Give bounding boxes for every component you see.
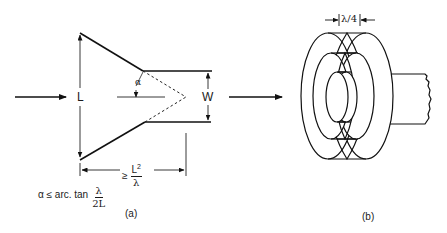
condition-fraction: λ 2L (92, 186, 105, 209)
spacing-label: λ/4 (341, 14, 357, 24)
horn-wall-top (80, 33, 143, 71)
inner-aperture-front (326, 72, 348, 122)
angle-condition: α ≤ arc. tan λ 2L (38, 186, 105, 209)
length-label: L (76, 91, 85, 103)
horn-wall-bottom (80, 122, 145, 160)
distance-prefix: ≥ (122, 171, 128, 181)
feed-cylinder (389, 74, 431, 124)
distance-denominator: λ (133, 177, 139, 188)
dashed-extension-bottom (145, 97, 186, 122)
distance-exponent: 2 (137, 163, 141, 170)
figure-b-graphics (229, 14, 431, 159)
distance-fraction: L2 λ (131, 163, 142, 188)
condition-lhs: α ≤ arc. tan (38, 190, 88, 200)
figure-a-graphics (15, 33, 212, 176)
figure-a-caption: (a) (125, 209, 137, 219)
condition-numerator: λ (95, 186, 103, 198)
figure-b-caption: (b) (362, 212, 374, 222)
dashed-extension-top (143, 71, 186, 97)
width-label: W (202, 91, 213, 103)
alpha-label: α (135, 78, 141, 87)
condition-denominator: 2L (92, 198, 105, 209)
distance-label: ≥ L2 λ (121, 163, 143, 188)
